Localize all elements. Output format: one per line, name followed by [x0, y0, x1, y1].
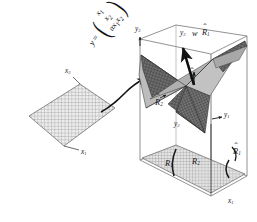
label-region-r-hat-1-top: R1 — [202, 29, 210, 37]
domain-axis-x1 — [64, 146, 79, 150]
saddle-surface — [139, 41, 247, 133]
label-vector-h-hat: h — [190, 73, 194, 81]
figure-canvas: x12 x1 y = ( x1 x2 αx1x2 ) y3 — [0, 0, 257, 222]
label-axis-x2-domain: x12 — [65, 68, 71, 75]
label-axis-x1-box-corner: x1 — [228, 198, 234, 205]
label-axis-y1: y1 — [224, 112, 230, 119]
domain-axis-x2 — [73, 77, 80, 84]
label-axis-y2-lower: y2 — [174, 121, 180, 128]
axis-pointer-y1 — [212, 117, 222, 119]
label-region-r2-floor: R2 — [192, 158, 200, 166]
label-region-r-hat-1-right: R1 — [233, 148, 241, 156]
label-region-r1-floor: R1 — [165, 160, 173, 168]
label-axis-y3: y3 — [135, 26, 141, 33]
label-axis-x1-domain: x1 — [81, 149, 87, 156]
label-vector-w: w — [192, 30, 197, 38]
diagram-geometry — [0, 0, 257, 222]
domain-grid-plane — [29, 77, 115, 150]
label-region-r-hat-2: R2 — [155, 99, 163, 107]
label-axis-y2-upper: y2 — [180, 30, 186, 37]
